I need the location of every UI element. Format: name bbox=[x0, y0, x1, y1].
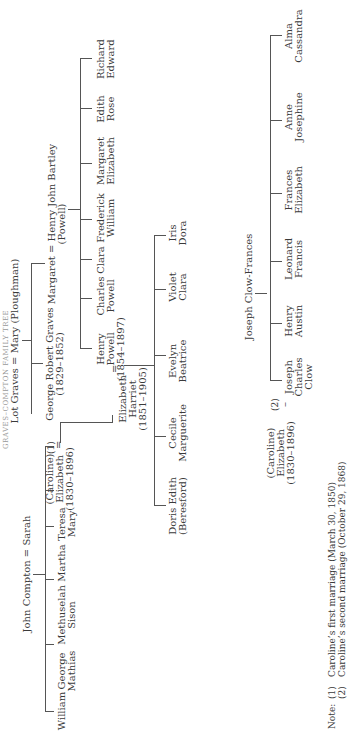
person-martha: Martha bbox=[57, 544, 67, 581]
person-caroline-elizabeth: (Caroline) Elizabeth (1830–1896) bbox=[45, 447, 75, 511]
connector bbox=[112, 415, 113, 423]
connector bbox=[154, 236, 155, 506]
connector bbox=[80, 259, 92, 260]
person-william: William bbox=[57, 692, 67, 730]
connector bbox=[80, 219, 92, 220]
family-tree-diagram: GRAVES–COMPTON FAMILY TREE John Compton … bbox=[0, 0, 353, 739]
connector bbox=[68, 209, 80, 210]
connector bbox=[45, 579, 54, 580]
person-frances-elizabeth: Frances Elizabeth bbox=[284, 166, 304, 214]
connector bbox=[22, 340, 31, 341]
connector bbox=[45, 526, 54, 527]
person-leonard-francis: Leonard Francis bbox=[284, 238, 304, 280]
connector bbox=[154, 235, 166, 236]
person-richard-edward: Richard Edward bbox=[96, 39, 116, 79]
marriage-1-equals: = bbox=[54, 441, 64, 449]
connector bbox=[80, 108, 92, 109]
person-clara: Clara bbox=[96, 246, 106, 274]
person-henry-austin: Henry Austin bbox=[284, 305, 304, 337]
connector bbox=[31, 264, 32, 414]
connector bbox=[31, 363, 43, 364]
note-1-marker: (1) bbox=[327, 686, 337, 699]
powell-marriage-equals: = bbox=[110, 365, 120, 373]
person-margaret-elizabeth: Margaret Elizabeth bbox=[96, 137, 116, 185]
person-cecile-marguerite: Cecile Marguerite bbox=[168, 404, 188, 462]
person-frederick-william: Frederick William bbox=[96, 193, 116, 243]
person-elizabeth-harriet: Elizabeth Harriet (1851–1905) bbox=[118, 367, 148, 431]
connector bbox=[270, 120, 282, 121]
notes-label: Note: bbox=[327, 704, 337, 729]
connector bbox=[124, 365, 154, 366]
connector bbox=[270, 380, 282, 381]
person-charles-powell: Charles Powell bbox=[96, 276, 116, 315]
connector bbox=[270, 323, 282, 324]
connector bbox=[154, 436, 166, 437]
person-methuselah-sison: Methuselah Sison bbox=[57, 585, 77, 645]
connector bbox=[270, 261, 282, 262]
connector bbox=[60, 423, 61, 443]
connector bbox=[154, 355, 166, 356]
connector bbox=[80, 163, 92, 164]
compton-parents: John Compton = Sarah bbox=[22, 516, 32, 633]
person-edith-rose: Edith Rose bbox=[96, 95, 116, 122]
person-doris-edith: Doris Edith (Beresford) bbox=[168, 477, 188, 535]
person-joseph-clow-frances: Joseph Clow-Frances bbox=[244, 234, 254, 341]
connector bbox=[270, 193, 282, 194]
connector bbox=[154, 289, 166, 290]
connector bbox=[45, 711, 54, 712]
person-george-mathias: George Mathias bbox=[57, 651, 77, 692]
connector bbox=[255, 293, 267, 294]
note-2-marker: (2) bbox=[337, 686, 347, 699]
person-iris-dora: Iris Dora bbox=[168, 221, 188, 246]
connector bbox=[80, 58, 92, 59]
connector bbox=[270, 35, 282, 36]
person-caroline-elizabeth-2: (Caroline) Elizabeth (1830–1896) bbox=[266, 421, 296, 485]
connector bbox=[154, 505, 166, 506]
connector bbox=[80, 298, 92, 299]
note-2-text: Caroline’s second marriage (October 29, … bbox=[337, 461, 347, 677]
person-violet-clara: Violet Clara bbox=[168, 272, 188, 301]
connector bbox=[80, 59, 81, 349]
connector bbox=[60, 422, 112, 423]
person-george-robert-graves: George Robert Graves (1829–1852) bbox=[45, 307, 65, 420]
connector bbox=[45, 644, 54, 645]
person-teresa-mary: Teresa Mary bbox=[57, 507, 77, 541]
person-alma-cassandra: Alma Cassandra bbox=[284, 9, 304, 62]
note-1-text: Caroline’s first marriage (March 30, 185… bbox=[327, 482, 337, 677]
person-evelyn-beatrice: Evelyn Beatrice bbox=[168, 340, 188, 383]
connector bbox=[33, 574, 45, 575]
person-anne-josephine: Anne Josephine bbox=[284, 92, 304, 141]
person-margaret-bartley: Margaret = Henry John Bartley (Powell) bbox=[47, 144, 67, 304]
person-joseph-charles-clow: Joseph Charles Clow bbox=[284, 357, 314, 396]
graves-parents: Lot Graves = Mary (Ploughman) bbox=[10, 259, 20, 424]
connector bbox=[270, 36, 271, 381]
marriage-2-dash: – bbox=[280, 402, 290, 407]
connector bbox=[31, 263, 45, 264]
connector bbox=[80, 348, 92, 349]
